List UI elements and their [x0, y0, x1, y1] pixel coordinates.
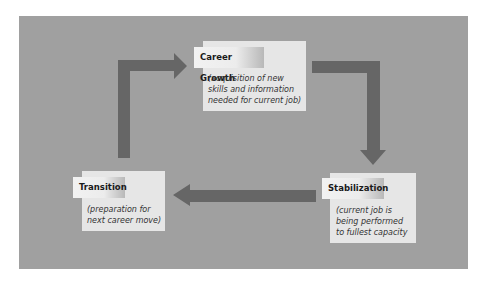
- stage-description-transition: (preparation for next career move): [87, 204, 161, 226]
- arrow-stabilization-to-transition: [173, 184, 316, 206]
- stage-description-career-growth: (acquisition of new skills and informati…: [208, 73, 301, 106]
- stage-description-stabilization: (current job is being performed to fulle…: [336, 205, 407, 238]
- stage-title-transition: Transition: [73, 177, 125, 198]
- arrow-growth-to-stabilization: [312, 61, 386, 165]
- stage-title-stabilization: Stabilization: [322, 178, 384, 199]
- stage-title-career-growth: Career Growth: [194, 47, 264, 68]
- arrow-transition-to-growth: [118, 53, 187, 158]
